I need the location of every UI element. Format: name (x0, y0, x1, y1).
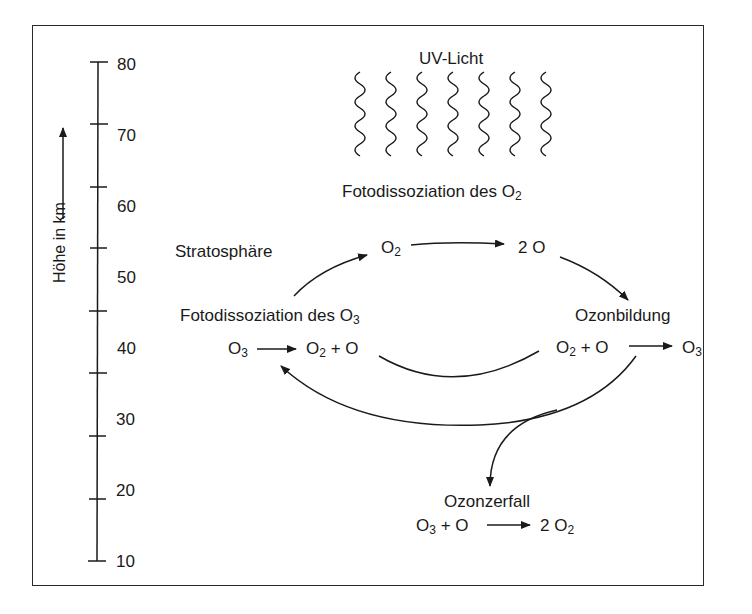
reaction-arrows (257, 243, 672, 525)
tick-label-60: 60 (117, 198, 136, 215)
axis-label: Höhe in km (52, 202, 68, 283)
o3-photodissociation-products: O2 + O (306, 340, 359, 357)
altitude-axis (88, 62, 108, 561)
tick-label-40: 40 (117, 340, 136, 357)
uv-light-label: UV-Licht (419, 50, 483, 67)
ozone-formation-product: O3 (682, 339, 702, 356)
ozone-formation-reactants: O2 + O (556, 339, 609, 356)
ozone-decay-title: Ozonzerfall (444, 493, 530, 510)
tick-label-30: 30 (116, 411, 135, 428)
tick-label-80: 80 (117, 56, 136, 73)
o3-photodissociation-reactant: O3 (228, 340, 248, 357)
uv-waves-icon (355, 72, 551, 156)
o2-photodissociation-label: Fotodissoziation des O2 (342, 183, 522, 200)
ozone-decay-product: 2 O2 (540, 517, 574, 534)
ozone-formation-title: Ozonbildung (575, 307, 670, 324)
o3-photodissociation-title: Fotodissoziation des O3 (180, 307, 360, 324)
tick-label-70: 70 (117, 127, 136, 144)
ozone-decay-reactants: O3 + O (416, 517, 469, 534)
tick-label-10: 10 (116, 553, 135, 570)
stratosphere-label: Stratosphäre (175, 243, 272, 260)
tick-label-20: 20 (116, 482, 135, 499)
two-o-atoms-label: 2 O (518, 239, 545, 256)
o2-molecule-label: O2 (381, 239, 401, 256)
tick-label-50: 50 (117, 269, 136, 286)
